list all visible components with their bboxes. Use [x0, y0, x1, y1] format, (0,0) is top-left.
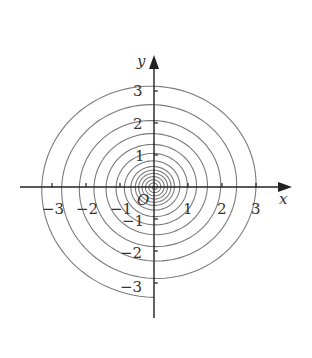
origin-label: O — [137, 191, 149, 209]
y-tick-label: −1 — [122, 212, 144, 230]
x-tick-label: 1 — [183, 200, 193, 218]
y-axis-label: y — [136, 52, 146, 70]
y-tick-label: 2 — [133, 115, 143, 133]
y-axis-arrow-icon — [149, 55, 159, 69]
spiral-figure: x y O −3 −2 −1 1 2 3 3 2 1 −1 −2 −3 — [0, 0, 312, 358]
y-tick-label: 3 — [133, 82, 143, 100]
x-axis-label: x — [279, 190, 288, 208]
x-tick-label: −2 — [76, 200, 98, 218]
x-tick-label: 3 — [251, 200, 261, 218]
y-tick-label: −2 — [120, 244, 142, 262]
y-tick-label: 1 — [135, 147, 145, 165]
x-tick-label: 2 — [217, 200, 227, 218]
x-tick-label: −3 — [42, 200, 64, 218]
y-tick-label: −3 — [120, 278, 142, 296]
